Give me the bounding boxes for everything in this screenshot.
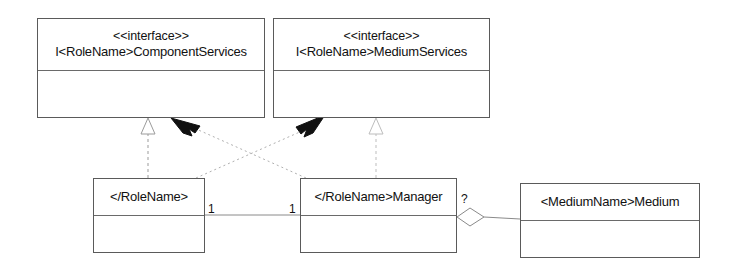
interface-medium-services-stereotype: <<interface>> (344, 29, 420, 44)
interface-component-services-stereotype: <<interface>> (113, 29, 189, 44)
class-role-name-label: </RoleName> (110, 189, 188, 205)
dependency-line-1 (185, 124, 306, 178)
dependency-line-2 (196, 131, 302, 178)
class-medium-name-medium-name-compartment: <MediumName>Medium (521, 184, 699, 221)
interface-box-component-services[interactable]: <<interface>> I<RoleName>ComponentServic… (37, 18, 265, 118)
dependency-rolename-to-mediumservices (196, 115, 325, 178)
dependency-arrowhead-1 (171, 118, 200, 136)
realization-triangle-2 (369, 118, 383, 134)
aggregation-diamond (457, 208, 484, 226)
realization-manager-to-mediumservices (369, 118, 383, 178)
aggregation-manager-to-medium (457, 208, 520, 226)
dependency-arrowhead-2 (296, 115, 325, 137)
class-box-role-name-manager[interactable]: </RoleName>Manager (300, 178, 457, 253)
interface-medium-services-name-compartment: <<interface>> I<RoleName>MediumServices (274, 19, 489, 71)
multiplicity-role-name-end: 1 (208, 203, 215, 215)
realization-rolename-to-componentservices (141, 118, 155, 178)
class-medium-name-medium-label: <MediumName>Medium (541, 194, 680, 210)
class-role-name-manager-members-compartment (301, 216, 456, 253)
interface-medium-services-members-compartment (274, 71, 489, 118)
class-medium-name-medium-members-compartment (521, 221, 699, 258)
class-role-name-name-compartment: </RoleName> (94, 179, 204, 216)
interface-component-services-label: I<RoleName>ComponentServices (55, 44, 247, 60)
interface-medium-services-label: I<RoleName>MediumServices (296, 44, 467, 60)
interface-component-services-name-compartment: <<interface>> I<RoleName>ComponentServic… (38, 19, 264, 71)
class-role-name-manager-label: </RoleName>Manager (315, 189, 443, 205)
interface-box-medium-services[interactable]: <<interface>> I<RoleName>MediumServices (273, 18, 490, 118)
class-role-name-members-compartment (94, 216, 204, 253)
multiplicity-manager-right-end: ? (461, 193, 468, 205)
interface-component-services-members-compartment (38, 71, 264, 118)
uml-class-diagram: <<interface>> I<RoleName>ComponentServic… (0, 0, 734, 274)
multiplicity-manager-left-end: 1 (289, 203, 296, 215)
dependency-manager-to-componentservices (171, 118, 306, 178)
class-role-name-manager-name-compartment: </RoleName>Manager (301, 179, 456, 216)
class-box-medium-name-medium[interactable]: <MediumName>Medium (520, 183, 700, 258)
realization-triangle-1 (141, 118, 155, 134)
class-box-role-name[interactable]: </RoleName> (93, 178, 205, 253)
aggregation-line (484, 217, 520, 219)
